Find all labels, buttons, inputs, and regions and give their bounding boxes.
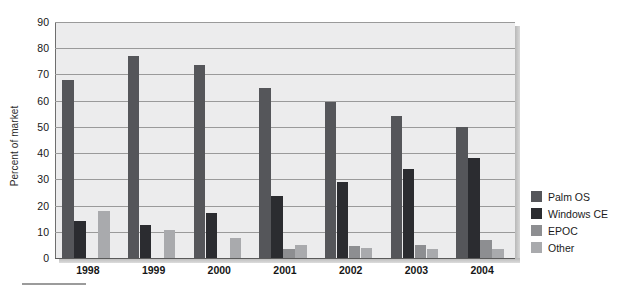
bar-chart: Percent of market 9080706050403020100 19… xyxy=(0,0,635,292)
bar-windows-ce-1999 xyxy=(140,225,152,258)
legend-swatch-icon xyxy=(531,225,542,236)
x-tick-label-2001: 2001 xyxy=(255,264,315,276)
bar-epoc-2003 xyxy=(415,245,427,258)
bar-palm-os-2003 xyxy=(391,116,403,258)
bar-other-1999 xyxy=(164,230,176,258)
bar-epoc-2001 xyxy=(283,249,295,258)
y-tick-label-70: 70 xyxy=(21,69,49,80)
bar-epoc-2002 xyxy=(349,246,361,258)
legend-item-label: Other xyxy=(548,242,574,254)
bar-windows-ce-1998 xyxy=(74,221,86,258)
legend-item-label: EPOC xyxy=(548,225,578,237)
y-tick-label-90: 90 xyxy=(21,17,49,28)
bar-windows-ce-2002 xyxy=(337,182,349,258)
bar-other-2003 xyxy=(427,249,439,258)
legend-swatch-icon xyxy=(531,208,542,219)
y-tick-label-50: 50 xyxy=(21,122,49,133)
bar-other-2004 xyxy=(492,249,504,258)
x-tick-label-2003: 2003 xyxy=(386,264,446,276)
bar-palm-os-2001 xyxy=(259,88,271,258)
bar-windows-ce-2001 xyxy=(271,196,283,258)
bar-other-2000 xyxy=(230,238,242,258)
bar-other-1998 xyxy=(98,211,110,258)
legend-item-windows-ce[interactable]: Windows CE xyxy=(531,205,631,222)
bar-epoc-2004 xyxy=(480,240,492,258)
x-tick-label-2000: 2000 xyxy=(189,264,249,276)
y-tick-label-40: 40 xyxy=(21,148,49,159)
panel-shadow-right xyxy=(515,26,520,262)
bar-palm-os-1999 xyxy=(128,56,140,258)
bar-palm-os-2000 xyxy=(194,65,206,258)
y-tick-label-0: 0 xyxy=(21,253,49,264)
y-tick-label-30: 30 xyxy=(21,174,49,185)
legend-swatch-icon xyxy=(531,242,542,253)
y-axis-title: Percent of market xyxy=(9,106,20,187)
bottom-rule xyxy=(22,283,86,285)
legend-swatch-icon xyxy=(531,191,542,202)
bar-other-2001 xyxy=(295,245,307,258)
bar-windows-ce-2000 xyxy=(206,213,218,258)
y-tick-label-60: 60 xyxy=(21,96,49,107)
legend-item-label: Windows CE xyxy=(548,208,608,220)
x-axis-line xyxy=(55,258,515,259)
x-tick-label-2002: 2002 xyxy=(321,264,381,276)
legend-item-palm-os[interactable]: Palm OS xyxy=(531,188,631,205)
bar-other-2002 xyxy=(361,248,373,258)
bar-palm-os-1998 xyxy=(62,80,74,258)
bar-windows-ce-2003 xyxy=(403,169,415,258)
bars-layer xyxy=(55,22,515,258)
y-tick-label-80: 80 xyxy=(21,43,49,54)
x-tick-label-2004: 2004 xyxy=(452,264,512,276)
y-tick-label-20: 20 xyxy=(21,201,49,212)
x-tick-label-1999: 1999 xyxy=(124,264,184,276)
bar-palm-os-2002 xyxy=(325,102,337,258)
legend-item-epoc[interactable]: EPOC xyxy=(531,222,631,239)
y-tick-label-10: 10 xyxy=(21,227,49,238)
bar-windows-ce-2004 xyxy=(468,158,480,258)
legend: Palm OSWindows CEEPOCOther xyxy=(531,188,631,256)
legend-item-label: Palm OS xyxy=(548,191,590,203)
x-tick-label-1998: 1998 xyxy=(58,264,118,276)
legend-item-other[interactable]: Other xyxy=(531,239,631,256)
bar-palm-os-2004 xyxy=(456,127,468,258)
